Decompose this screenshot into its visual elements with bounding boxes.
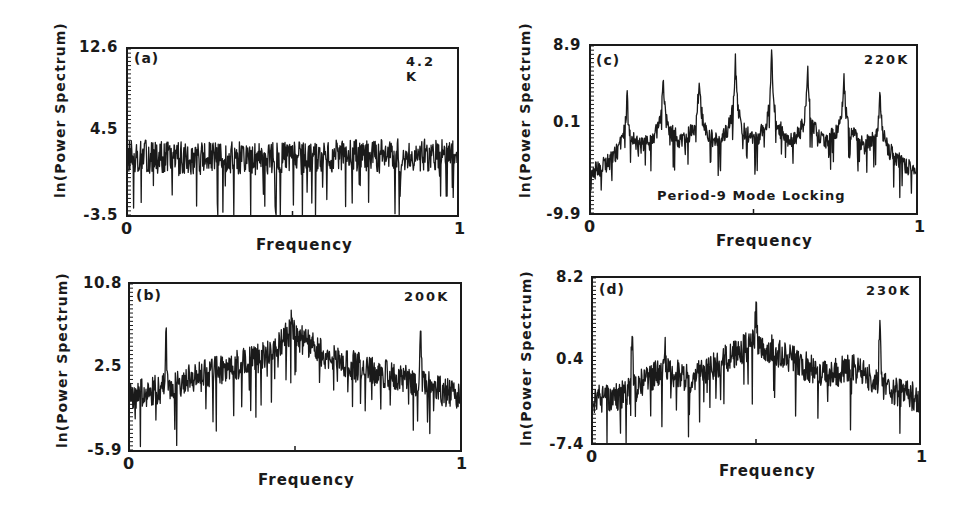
- spectrum-trace: [593, 302, 919, 443]
- temperature-label: 220K: [864, 52, 909, 67]
- x-tick-min: 0: [584, 217, 595, 236]
- panel-label: (d): [599, 281, 625, 297]
- plot-area: [591, 276, 921, 445]
- temperature-label: 4.2 K: [406, 54, 435, 84]
- spectrum-plot: [593, 278, 919, 443]
- mode-locking-annotation: Period-9 Mode Locking: [657, 188, 846, 203]
- y-tick-min: -3.5: [58, 206, 118, 224]
- y-tick-min: -9.9: [521, 205, 581, 223]
- y-tick-mid: 4.5: [58, 120, 118, 138]
- spectrum-trace: [128, 139, 457, 215]
- x-tick-min: 0: [586, 447, 597, 466]
- y-tick-max: 8.9: [521, 36, 581, 54]
- y-tick-min: -7.4: [524, 435, 584, 453]
- panel-label: (b): [136, 287, 162, 303]
- x-tick-max: 1: [456, 454, 467, 473]
- panel-label: (c): [596, 52, 620, 68]
- y-tick-min: -5.9: [62, 441, 122, 459]
- spectrum-plot: [130, 284, 460, 450]
- x-tick-max: 1: [454, 219, 465, 238]
- y-tick-mid: 0.1: [521, 113, 581, 131]
- x-axis-label: Frequency: [256, 236, 353, 254]
- x-tick-max: 1: [914, 217, 925, 236]
- panel-label: (a): [134, 50, 159, 66]
- y-tick-max: 12.6: [58, 38, 118, 56]
- x-axis-label: Frequency: [258, 471, 355, 489]
- spectrum-trace: [130, 310, 460, 446]
- spectrum-trace: [591, 50, 916, 198]
- x-axis-label: Frequency: [716, 232, 813, 250]
- y-tick-max: 8.2: [524, 268, 584, 286]
- y-tick-mid: 0.4: [524, 350, 584, 368]
- plot-area: [128, 282, 462, 452]
- x-tick-min: 0: [121, 219, 132, 238]
- y-tick-mid: 2.5: [62, 357, 122, 375]
- x-tick-min: 0: [123, 454, 134, 473]
- temperature-label: 230K: [866, 283, 911, 298]
- temperature-label: 200K: [404, 289, 449, 304]
- x-axis-label: Frequency: [719, 462, 816, 480]
- x-tick-max: 1: [916, 447, 927, 466]
- y-tick-max: 10.8: [62, 274, 122, 292]
